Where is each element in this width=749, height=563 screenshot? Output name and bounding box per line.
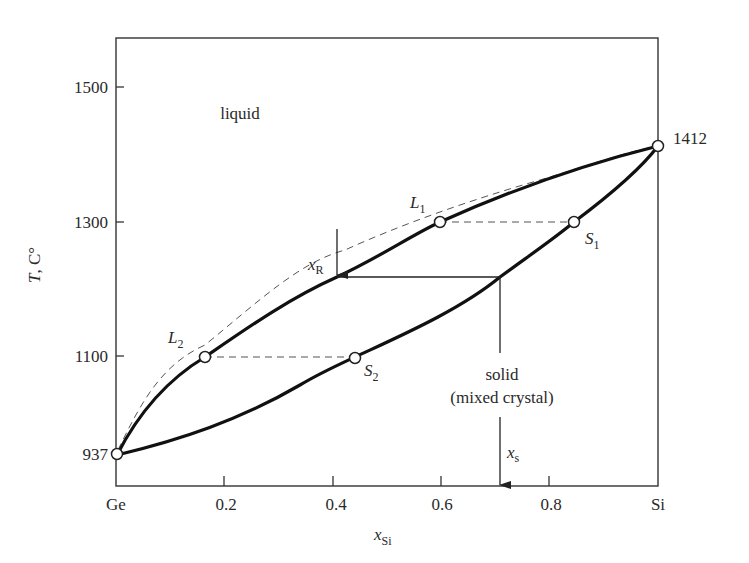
liquidus-curve <box>117 146 658 455</box>
point-L1 <box>435 217 446 228</box>
si-melting-point-label: 1412 <box>673 129 707 148</box>
label-L2: L2 <box>167 328 183 351</box>
x-tick-0.4: 0.4 <box>325 495 347 514</box>
y-tick-1500: 1500 <box>74 78 108 97</box>
mixed-crystal-label: (mixed crystal) <box>450 388 553 407</box>
ideal-liquidus-dashed <box>118 146 658 450</box>
y-tick-1100: 1100 <box>75 347 108 366</box>
x-axis-title: xSi <box>373 525 392 548</box>
y-axis-title: T, C° <box>25 247 44 283</box>
y-ticks <box>116 87 124 356</box>
data-points <box>112 141 664 460</box>
svg-text:T, C°: T, C° <box>25 247 44 283</box>
x-tick-si: Si <box>651 495 665 514</box>
point-ge-mp <box>112 449 123 460</box>
y-tick-937: 937 <box>83 445 109 464</box>
label-xR: xR <box>307 255 324 277</box>
x-tick-0.2: 0.2 <box>215 495 236 514</box>
x-tick-ge: Ge <box>106 495 126 514</box>
x-tick-0.6: 0.6 <box>431 495 452 514</box>
solid-label: solid <box>485 365 519 384</box>
label-S1: S1 <box>585 229 600 252</box>
y-tick-1300: 1300 <box>74 213 108 232</box>
phase-diagram: 1500 1300 1100 937 Ge 0.2 0.4 0.6 0.8 Si… <box>0 0 749 563</box>
label-S2: S2 <box>364 361 379 384</box>
point-si-mp <box>653 141 664 152</box>
label-xs: xs <box>506 443 520 465</box>
label-L1: L1 <box>409 193 425 216</box>
point-S1 <box>569 217 580 228</box>
point-L2 <box>200 352 211 363</box>
x-tick-0.8: 0.8 <box>540 495 561 514</box>
liquid-label: liquid <box>220 104 260 123</box>
plot-frame <box>116 38 658 486</box>
point-S2 <box>350 353 361 364</box>
solidus-curve <box>117 146 658 455</box>
